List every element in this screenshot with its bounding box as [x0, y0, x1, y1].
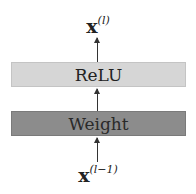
relu-layer-box: ReLU: [11, 62, 186, 87]
weight-layer-label: Weight: [68, 114, 128, 134]
output-superscript: (l): [98, 14, 110, 27]
output-var: x: [86, 15, 97, 37]
input-superscript: (l−1): [90, 163, 118, 176]
weight-layer-box: Weight: [11, 111, 186, 136]
arrow-weight-to-relu: [97, 89, 98, 111]
input-label: x(l−1): [0, 163, 196, 186]
arrow-input-to-weight: [97, 138, 98, 162]
relu-layer-label: ReLU: [75, 65, 123, 85]
arrow-relu-to-output: [97, 38, 98, 62]
input-var: x: [78, 164, 89, 186]
output-label: x(l): [0, 14, 196, 37]
